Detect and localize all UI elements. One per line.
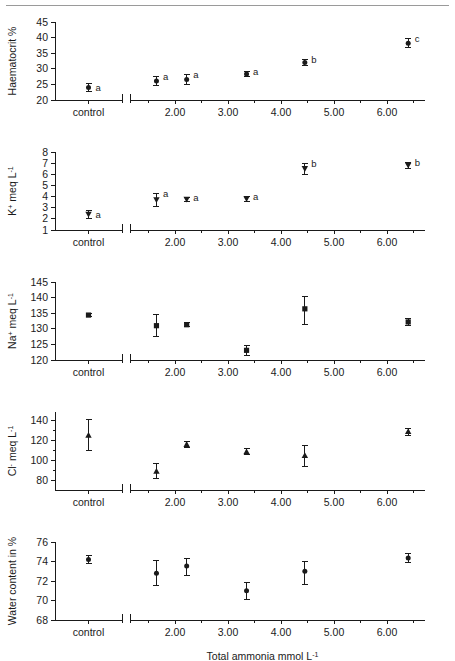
x-tick-label: 3.00 [218,106,239,118]
y-tick-label: 3 [42,201,48,213]
y-tick-label: 7 [42,157,48,169]
x-tick-label: 5.00 [324,496,345,508]
y-tick-label: 8 [42,146,48,158]
significance-letter-control: a [96,209,102,220]
ylabel-mid: meq L [6,172,18,204]
x-axis-title-sup: -1 [312,651,318,658]
y-axis-title: K+ meq L-1 [6,166,18,216]
y-tick-label: 76 [36,536,48,548]
datapoint-control [86,85,91,90]
y-axis-title: Na+ meq L-1 [6,293,18,349]
significance-letter: c [415,33,420,44]
x-tick-label: 3.00 [218,496,239,508]
y-tick-label: 25 [36,78,48,90]
y-tick-label: 6 [42,168,48,180]
x-tick-label: 6.00 [377,366,398,378]
datapoint-control [86,312,91,317]
y-tick-label: 120 [30,354,48,366]
x-tick-label: 4.00 [271,626,292,638]
x-tick-label: 2.00 [165,626,186,638]
y-tick-label: 30 [36,62,48,74]
x-tick-label: 2.00 [165,496,186,508]
y-tick-label: 70 [36,594,48,606]
significance-letter: a [193,192,199,203]
datapoint [302,452,308,458]
x-tick-label: 5.00 [324,366,345,378]
x-tick-label: 3.00 [218,236,239,248]
significance-letter: a [253,191,259,202]
y-tick-label: 74 [36,555,48,567]
x-tick-label-control: control [73,236,105,248]
datapoint [184,322,189,327]
ylabel-main: Cl [6,466,18,476]
x-tick-label: 4.00 [271,366,292,378]
x-axis-title: Total ammonia mmol L-1 [207,650,319,661]
y-tick-label: 140 [30,414,48,426]
datapoint [302,60,307,65]
ylabel-mid: meq L [6,432,18,464]
datapoint [406,41,411,46]
x-tick-label: 6.00 [377,236,398,248]
y-tick-label: 145 [30,276,48,288]
significance-letter: b [311,54,316,65]
datapoint [302,166,308,172]
datapoint [153,197,159,203]
panel-3: 120125130135140145control2.003.004.005.0… [6,276,425,378]
x-tick-label: 5.00 [324,236,345,248]
datapoint [302,306,307,311]
datapoint [184,563,189,568]
x-tick-label: 4.00 [271,236,292,248]
significance-letter: a [193,69,199,80]
figure-root: 202530354045control2.003.004.005.006.00a… [0,0,455,661]
datapoint [406,319,411,324]
x-axis-title-main: Total ammonia mmol L [207,650,313,661]
ylabel-exponent-sup: -1 [7,426,14,432]
y-tick-label: 100 [30,454,48,466]
x-tick-label-control: control [73,366,105,378]
y-tick-label: 130 [30,322,48,334]
panel-1: 202530354045control2.003.004.005.006.00a… [6,16,425,118]
significance-letter: a [163,71,169,82]
y-axis-title-text: Haematocrit % [6,27,18,96]
datapoint [154,571,159,576]
datapoint [406,556,411,561]
y-tick-label: 68 [36,614,48,626]
datapoint [243,449,249,455]
datapoint [244,348,249,353]
y-tick-label: 45 [36,16,48,28]
datapoint [184,77,189,82]
y-tick-label: 40 [36,31,48,43]
y-tick-label: 5 [42,179,48,191]
panel-2: 12345678control2.003.004.005.006.00aaaab… [6,146,425,248]
y-axis-title-text: Cl- meq L-1 [6,426,18,477]
x-tick-label-control: control [73,106,105,118]
x-tick-label: 2.00 [165,236,186,248]
datapoint [302,569,307,574]
x-tick-label: 5.00 [324,106,345,118]
x-tick-label: 4.00 [271,496,292,508]
datapoint [244,588,249,593]
y-tick-label: 125 [30,338,48,350]
x-tick-label-control: control [73,496,105,508]
ylabel-exponent-sup: -1 [7,293,14,299]
datapoint-control [85,432,91,438]
y-tick-label: 4 [42,190,48,202]
significance-letter: a [163,188,169,199]
datapoint [154,78,159,83]
x-tick-label: 2.00 [165,106,186,118]
y-tick-label: 72 [36,575,48,587]
y-tick-label: 2 [42,212,48,224]
y-tick-label: 1 [42,224,48,236]
x-tick-label: 3.00 [218,366,239,378]
x-tick-label: 3.00 [218,626,239,638]
y-axis-title: Water content in % [6,537,18,625]
x-tick-label: 4.00 [271,106,292,118]
ylabel-main: K [6,209,18,216]
y-axis-title-text: Na+ meq L-1 [6,293,18,349]
panel-4: 80100120140control2.003.004.005.006.00Cl… [6,412,425,508]
x-tick-label: 6.00 [377,496,398,508]
panel-5: 6870727476control2.003.004.005.006.00Wat… [6,536,425,638]
datapoint [154,323,159,328]
multi-panel-scatter-figure: 202530354045control2.003.004.005.006.00a… [0,0,455,661]
y-tick-label: 120 [30,434,48,446]
